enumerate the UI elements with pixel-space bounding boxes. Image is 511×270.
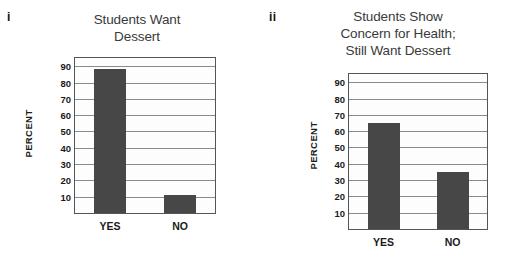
panel-label-ii: ii xyxy=(269,10,276,24)
chart-title-i-line-2: Dessert xyxy=(52,28,222,45)
bar-yes xyxy=(368,123,400,229)
gridline xyxy=(75,66,215,67)
chart-title-ii: Students Show Concern for Health; Still … xyxy=(303,8,493,59)
x-axis-label-yes: YES xyxy=(99,220,120,232)
y-axis-tick-label: 90 xyxy=(60,61,71,72)
chart-title-ii-line-1: Students Show xyxy=(303,8,493,25)
plot-area-i: 908070605040302010YESNO xyxy=(74,57,216,214)
y-axis-caption-ii: PERCENT xyxy=(308,116,319,176)
x-axis-label-no: NO xyxy=(445,236,461,248)
y-axis-tick-label: 60 xyxy=(334,126,345,137)
y-axis-caption-i: PERCENT xyxy=(23,104,34,164)
y-axis-tick-label: 20 xyxy=(334,191,345,202)
x-axis-label-yes: YES xyxy=(373,236,394,248)
chart-panel-ii: ii Students Show Concern for Health; Sti… xyxy=(255,0,511,270)
plot-area-ii: 908070605040302010YESNO xyxy=(348,73,488,230)
gridline xyxy=(349,99,487,100)
y-axis-tick-label: 80 xyxy=(334,93,345,104)
panel-label-i: i xyxy=(7,10,11,24)
chart-title-ii-line-3: Still Want Dessert xyxy=(303,42,493,59)
chart-panel-i: i Students Want Dessert PERCENT 90807060… xyxy=(0,0,255,270)
y-axis-tick-label: 30 xyxy=(334,175,345,186)
y-axis-tick-label: 20 xyxy=(60,175,71,186)
y-axis-tick-label: 90 xyxy=(334,77,345,88)
y-axis-tick-label: 80 xyxy=(60,77,71,88)
chart-title-ii-line-2: Concern for Health; xyxy=(303,25,493,42)
y-axis-tick-label: 40 xyxy=(334,158,345,169)
chart-title-i-line-1: Students Want xyxy=(52,11,222,28)
y-axis-tick-label: 10 xyxy=(60,191,71,202)
y-axis-tick-label: 70 xyxy=(60,93,71,104)
bar-no xyxy=(437,172,469,229)
y-axis-tick-label: 50 xyxy=(60,126,71,137)
chart-title-i: Students Want Dessert xyxy=(52,11,222,45)
bar-yes xyxy=(94,69,126,213)
gridline xyxy=(349,82,487,83)
y-axis-tick-label: 10 xyxy=(334,207,345,218)
y-axis-tick-label: 70 xyxy=(334,109,345,120)
y-axis-tick-label: 60 xyxy=(60,110,71,121)
x-axis-label-no: NO xyxy=(172,220,188,232)
y-axis-tick-label: 50 xyxy=(334,142,345,153)
gridline xyxy=(349,115,487,116)
y-axis-tick-label: 40 xyxy=(60,142,71,153)
y-axis-tick-label: 30 xyxy=(60,159,71,170)
bar-chart-figure: i Students Want Dessert PERCENT 90807060… xyxy=(0,0,511,270)
bar-no xyxy=(164,195,196,213)
